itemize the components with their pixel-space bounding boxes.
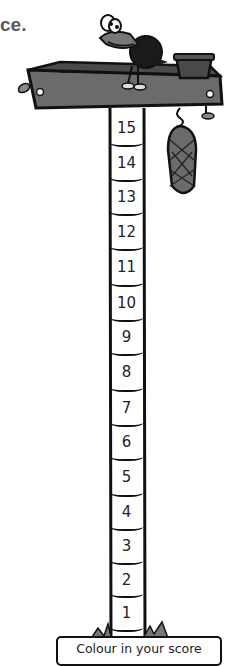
score-segment-7[interactable]: 7 — [110, 390, 143, 427]
score-segment-9[interactable]: 9 — [110, 320, 143, 356]
score-segment-14[interactable]: 14 — [110, 145, 143, 182]
score-segment-8[interactable]: 8 — [110, 354, 143, 392]
score-segment-13[interactable]: 13 — [110, 180, 143, 216]
caption-text: Colour in your score — [76, 641, 202, 656]
score-segment-1[interactable]: 1 — [110, 596, 143, 632]
score-segment-5[interactable]: 5 — [110, 459, 143, 497]
score-segment-3[interactable]: 3 — [110, 529, 143, 565]
score-pole: 15 14 13 12 11 10 9 8 7 6 5 4 3 2 1 — [110, 110, 143, 650]
caption-box: Colour in your score — [56, 636, 222, 666]
score-segment-12[interactable]: 12 — [110, 214, 143, 251]
score-segment-10[interactable]: 10 — [110, 285, 143, 322]
score-segment-2[interactable]: 2 — [110, 563, 143, 598]
score-segment-4[interactable]: 4 — [110, 495, 143, 531]
score-segment-6[interactable]: 6 — [110, 425, 143, 461]
score-segment-15[interactable]: 15 — [110, 110, 143, 147]
score-segment-11[interactable]: 11 — [110, 249, 143, 287]
